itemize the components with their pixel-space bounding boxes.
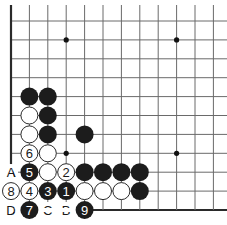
black-stone-move-3: 3: [39, 182, 57, 200]
black-stone-move-9: 9: [76, 201, 94, 219]
star-point-icon: [64, 151, 69, 156]
star-point-icon: [174, 37, 179, 42]
star-point-icon: [64, 37, 69, 42]
stone-disc: [76, 125, 94, 143]
point-label-a: A: [7, 165, 16, 180]
black-stone-move-7: 7: [20, 201, 38, 219]
stone-disc: [39, 125, 57, 143]
go-board-diagram: ADCBAD 652843179: [0, 0, 227, 225]
stone-disc: [76, 163, 94, 181]
stone-disc: [39, 164, 56, 181]
white-stone-move-2: 2: [58, 164, 75, 181]
move-number: 2: [63, 165, 70, 180]
white-stone-move-6: 6: [21, 145, 38, 162]
stone-disc: [131, 163, 149, 181]
black-stone: [131, 163, 149, 181]
black-stone: [131, 182, 149, 200]
white-stone-move-8: 8: [3, 183, 20, 200]
move-number: 1: [63, 184, 70, 199]
point-label-d: D: [6, 203, 15, 218]
white-stone: [21, 126, 38, 143]
black-stone: [76, 163, 94, 181]
black-stone: [112, 163, 130, 181]
white-stone: [95, 183, 112, 200]
white-stone: [76, 183, 93, 200]
move-number: 6: [26, 146, 33, 161]
black-stone: [76, 125, 94, 143]
black-stone-move-5: 5: [20, 163, 38, 181]
black-stone-move-1: 1: [57, 182, 75, 200]
black-stone: [94, 163, 112, 181]
black-stone: [39, 88, 57, 106]
stone-disc: [112, 163, 130, 181]
stone-disc: [39, 145, 56, 162]
black-stone: [39, 125, 57, 143]
stone-disc: [21, 107, 38, 124]
stone-disc: [94, 163, 112, 181]
stone-disc: [39, 107, 57, 125]
white-stone: [39, 164, 56, 181]
move-number: 8: [7, 184, 14, 199]
stone-disc: [95, 183, 112, 200]
move-number: 3: [44, 184, 51, 199]
move-number: 5: [26, 165, 33, 180]
move-number: 4: [26, 184, 33, 199]
black-stone: [39, 107, 57, 125]
black-stone: [20, 88, 38, 106]
move-number: 7: [26, 203, 33, 218]
white-stone: [21, 107, 38, 124]
star-point-icon: [174, 151, 179, 156]
white-stone: [39, 145, 56, 162]
stone-disc: [39, 88, 57, 106]
stone-disc: [20, 88, 38, 106]
white-stone: [113, 183, 130, 200]
move-number: 9: [81, 203, 88, 218]
stone-disc: [76, 183, 93, 200]
white-stone-move-4: 4: [21, 183, 38, 200]
stone-disc: [113, 183, 130, 200]
stone-disc: [21, 126, 38, 143]
stone-disc: [131, 182, 149, 200]
